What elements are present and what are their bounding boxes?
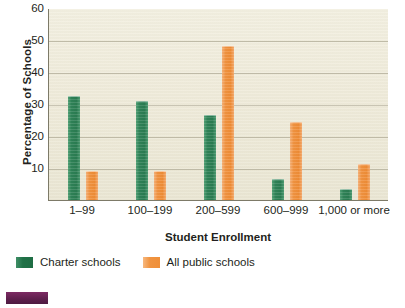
x-axis-title: Student Enrollment (48, 231, 388, 243)
legend-swatch-all-public (143, 257, 160, 268)
legend-label: Charter schools (40, 256, 121, 268)
plot-area (48, 9, 388, 201)
gridline (49, 73, 388, 74)
page-crop-artifact (6, 292, 48, 304)
y-axis-tick-label: 20 (18, 131, 44, 142)
y-axis-tick-label: 50 (18, 35, 44, 46)
chart-legend: Charter schoolsAll public schools (16, 256, 255, 268)
gridline (49, 169, 388, 170)
bar-charter (68, 96, 80, 200)
x-axis-tick-label: 100–199 (112, 204, 188, 217)
x-axis-tick-label: 1–99 (44, 204, 120, 217)
bar-all-public (86, 171, 98, 200)
bar-all-public (222, 46, 234, 200)
bar-charter (136, 101, 148, 200)
legend-label: All public schools (167, 256, 255, 268)
bar-all-public (154, 171, 166, 200)
bar-chart-figure: Percentage of Schools 102030405060 1–991… (0, 0, 405, 308)
bar-all-public (290, 122, 302, 200)
legend-item: Charter schools (16, 256, 121, 268)
x-axis-tick-label: 600–999 (248, 204, 324, 217)
legend-swatch-charter (16, 257, 33, 268)
legend-item: All public schools (143, 256, 255, 268)
bar-all-public (358, 164, 370, 200)
y-axis-tick-label: 30 (18, 99, 44, 110)
x-axis-tick-label: 200–599 (180, 204, 256, 217)
y-axis-tick-labels: 102030405060 (18, 0, 44, 210)
x-axis-tick-label: 1,000 or more (316, 204, 392, 217)
bar-charter (272, 179, 284, 200)
y-axis-tick-label: 10 (18, 163, 44, 174)
gridline (49, 41, 388, 42)
gridline (49, 137, 388, 138)
gridline (49, 105, 388, 106)
bar-charter (204, 115, 216, 200)
bar-charter (340, 189, 352, 200)
y-axis-tick-label: 60 (18, 3, 44, 14)
y-axis-tick-label: 40 (18, 67, 44, 78)
